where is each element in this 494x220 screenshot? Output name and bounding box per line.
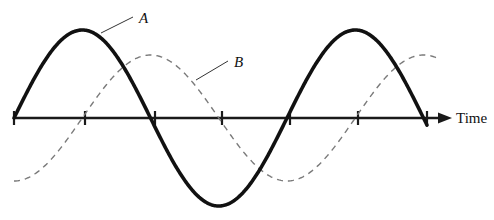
time-axis-arrowhead: [438, 113, 452, 124]
time-axis-label: Time: [456, 110, 487, 126]
curve-a-leader-line: [101, 17, 133, 33]
curve-b-label: B: [234, 54, 243, 70]
curve-a-label: A: [138, 10, 149, 26]
wave-diagram-svg: A B Time: [0, 0, 494, 220]
wave-figure: A B Time: [0, 0, 494, 220]
annotation-group: A B Time: [101, 10, 487, 126]
curve-b-leader-line: [196, 61, 228, 80]
